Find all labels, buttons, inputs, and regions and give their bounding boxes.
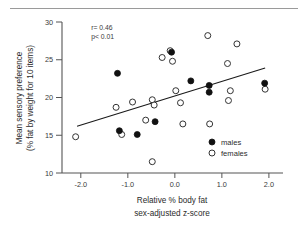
- data-point-male: [206, 89, 212, 95]
- data-point-female: [73, 134, 79, 140]
- x-tick-label: 2.0: [264, 180, 274, 189]
- data-point-female: [234, 41, 240, 47]
- y-tick-label: 10: [45, 169, 53, 178]
- legend-marker-females: [209, 150, 215, 156]
- annotation-text: r= 0.46: [91, 24, 113, 31]
- regression-line-group: [77, 68, 265, 126]
- data-point-female: [207, 121, 213, 127]
- y-axis-title-line2: (% fat by weight for 10 items): [26, 45, 35, 151]
- data-point-female: [159, 54, 165, 60]
- data-point-male: [134, 131, 140, 137]
- regression-line: [77, 68, 265, 126]
- data-point-female: [173, 88, 179, 94]
- legend-label: females: [221, 149, 248, 158]
- data-point-female: [151, 102, 157, 108]
- data-point-male: [188, 78, 194, 84]
- data-point-male: [169, 49, 175, 55]
- data-point-male: [262, 80, 268, 86]
- data-point-male: [116, 128, 122, 134]
- data-point-male: [114, 70, 120, 76]
- y-axis-title-line1: Mean sensory preference: [15, 51, 24, 144]
- data-point-male: [152, 119, 158, 125]
- data-point-female: [225, 98, 231, 104]
- statistics-annotations: r= 0.46p< 0.01: [91, 24, 114, 40]
- data-point-female: [113, 104, 119, 110]
- x-tick-label: -2.0: [75, 180, 88, 189]
- y-tick-label: 15: [45, 131, 53, 140]
- data-point-female: [180, 121, 186, 127]
- annotation-text: p< 0.01: [91, 33, 114, 41]
- data-point-female: [143, 117, 149, 123]
- data-point-female: [205, 33, 211, 39]
- x-tick-label: 0.0: [170, 180, 180, 189]
- y-tick-label: 25: [45, 55, 53, 64]
- y-axis-ticks: 1015202530: [45, 18, 62, 178]
- x-axis-title-line2: sex-adjusted z-score: [134, 209, 210, 218]
- x-axis-ticks: -2.0-1.00.01.02.0: [75, 173, 274, 189]
- data-point-male: [206, 82, 212, 88]
- data-point-female: [225, 61, 231, 67]
- legend-marker-males: [209, 139, 215, 145]
- data-point-female: [149, 159, 155, 165]
- data-point-female: [227, 88, 233, 94]
- data-point-female: [177, 100, 183, 106]
- y-tick-label: 20: [45, 93, 53, 102]
- scatter-plot: 1015202530 -2.0-1.00.01.02.0 r= 0.46p< 0…: [0, 0, 305, 229]
- figure-container: 1015202530 -2.0-1.00.01.02.0 r= 0.46p< 0…: [0, 0, 305, 229]
- x-tick-label: -1.0: [122, 180, 135, 189]
- male-data-points: [114, 49, 267, 137]
- axes-group: [62, 22, 283, 173]
- legend-label: males: [221, 138, 241, 147]
- y-tick-label: 30: [45, 18, 53, 27]
- data-point-female: [262, 86, 268, 92]
- x-tick-label: 1.0: [217, 180, 227, 189]
- data-point-female: [170, 58, 176, 64]
- x-axis-title-line1: Relative % body fat: [137, 196, 208, 205]
- data-point-female: [130, 99, 136, 105]
- legend: malesfemales: [209, 138, 248, 158]
